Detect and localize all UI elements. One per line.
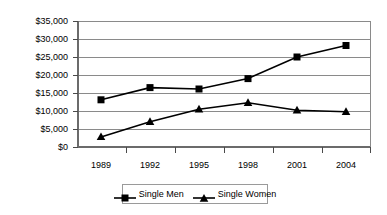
data-point-marker bbox=[244, 98, 253, 106]
legend-entry-single-women: Single Women bbox=[193, 189, 276, 199]
series-single-men bbox=[98, 42, 350, 103]
legend-triangle-marker-icon bbox=[193, 189, 215, 199]
series-single-women bbox=[97, 98, 351, 140]
legend-square-marker-icon bbox=[114, 189, 136, 199]
data-point-marker bbox=[196, 86, 203, 93]
data-point-marker bbox=[147, 84, 154, 91]
series-line bbox=[101, 103, 346, 137]
legend-entry-single-men: Single Men bbox=[114, 189, 184, 199]
legend-label: Single Women bbox=[218, 189, 276, 199]
chart-legend: Single Men Single Women bbox=[122, 184, 268, 204]
data-point-marker bbox=[98, 96, 105, 103]
line-chart: $35,000 $30,000 $25,000 $20,000 $15,000 … bbox=[0, 0, 387, 215]
data-point-marker bbox=[343, 42, 350, 49]
data-point-marker bbox=[245, 75, 252, 82]
series-line bbox=[101, 46, 346, 100]
y-axis-ticks bbox=[73, 21, 78, 147]
plot-area bbox=[0, 0, 387, 215]
x-axis-ticks bbox=[126, 147, 370, 153]
legend-label: Single Men bbox=[139, 189, 184, 199]
data-point-marker bbox=[294, 54, 301, 61]
